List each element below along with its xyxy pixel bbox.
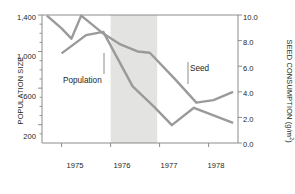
drought-band: [111, 15, 158, 143]
shaded-band-layer: [111, 15, 158, 143]
chart-figure: POPULATION SIZE SEED CONSUMPTION (g/m2) …: [0, 0, 295, 194]
plot-area: [0, 0, 295, 194]
